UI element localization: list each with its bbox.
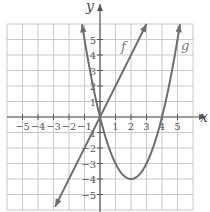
curve-arrow-icon — [140, 24, 146, 33]
x-tick-label: −3 — [46, 121, 61, 132]
y-tick-label: 5 — [90, 35, 96, 46]
x-tick-label: −5 — [15, 121, 30, 132]
x-tick-label: 3 — [143, 121, 149, 132]
x-tick-label: 5 — [174, 121, 180, 132]
y-tick-label: −5 — [81, 190, 96, 201]
y-axis-label: y — [85, 0, 95, 14]
curve-arrow-icon — [55, 198, 61, 207]
f-label: f — [120, 39, 128, 54]
y-tick-label: 4 — [90, 50, 96, 61]
function-graph: −5−4−3−2−112345−5−4−3−2112345 x y f g — [0, 0, 210, 212]
curve-arrow-icon — [80, 24, 86, 32]
axes — [7, 4, 206, 212]
x-tick-label: 2 — [128, 121, 134, 132]
x-tick-label: −4 — [31, 121, 46, 132]
x-tick-label: 1 — [112, 121, 118, 132]
y-tick-label: −4 — [81, 174, 96, 185]
curve-arrow-icon — [176, 24, 182, 32]
x-tick-label: −2 — [62, 121, 77, 132]
x-axis-label: x — [200, 109, 208, 125]
y-axis-arrow-icon — [97, 4, 103, 11]
y-tick-label: −3 — [81, 159, 96, 170]
g-label: g — [181, 38, 189, 53]
